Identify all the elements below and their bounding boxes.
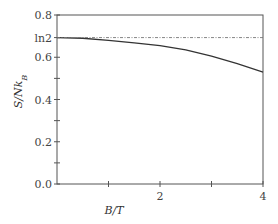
y-tick-label: 0.2 (35, 136, 53, 149)
y-tick-label: 0.8 (35, 9, 53, 22)
y-axis-label-sub: B (20, 75, 29, 82)
y-axis-label-main: S/Nk (12, 80, 25, 108)
chart: 0.00.20.40.6ln20.824 B/T S/NkB (0, 0, 278, 224)
x-tick-label: 2 (157, 190, 164, 203)
y-tick-label: ln2 (34, 32, 52, 45)
y-tick-label: 0.6 (35, 51, 53, 64)
y-tick-label: 0.0 (35, 178, 53, 191)
x-tick-label: 4 (260, 190, 267, 203)
x-axis-label: B/T (103, 204, 125, 217)
plot-frame (57, 15, 263, 184)
y-tick-label: 0.4 (35, 94, 53, 107)
y-axis-label: S/NkB (12, 75, 29, 109)
series-entropy (57, 38, 263, 72)
